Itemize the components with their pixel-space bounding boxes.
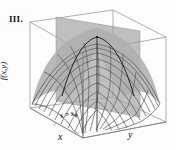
cut-plane-annotation-text: x = x [59,109,75,120]
axis-ticks [54,123,56,126]
surface-plot-svg [0,0,176,150]
panel-label: III. [9,14,23,24]
z-axis-label: f(x,y) [0,62,8,81]
figure-container: III. f(x,y) x y x = x0 [0,0,176,150]
cut-plane-front [56,17,140,117]
y-axis-label: y [128,129,132,140]
tick-x-plane [54,123,56,126]
x-axis-label: x [58,131,62,142]
